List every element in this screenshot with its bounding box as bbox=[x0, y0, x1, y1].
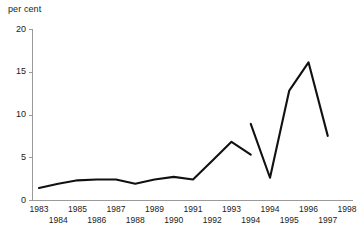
chart-container: per cent 05101520 1983198419851986198719… bbox=[0, 0, 358, 233]
line-series-2 bbox=[251, 62, 328, 177]
line-series-1 bbox=[39, 142, 251, 188]
plot-area bbox=[0, 0, 358, 233]
